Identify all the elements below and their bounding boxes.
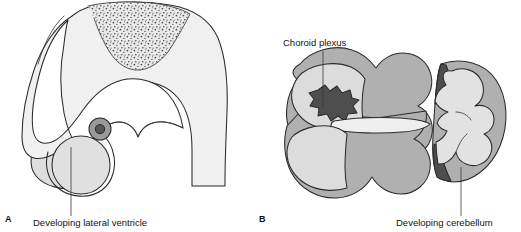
label-choroid-plexus: Choroid plexus bbox=[283, 37, 347, 48]
panel-a-group: A Developing lateral ventricle bbox=[5, 0, 227, 228]
anatomical-figure-svg: A Developing lateral ventricle bbox=[0, 0, 521, 232]
label-developing-lateral-ventricle: Developing lateral ventricle bbox=[33, 217, 147, 228]
panel-b-group: B Choroid plexus Developing cerebellum bbox=[259, 37, 506, 228]
panel-letter-b: B bbox=[259, 214, 266, 224]
panel-b-inner-lobe-lower-left bbox=[287, 126, 347, 190]
panel-letter-a: A bbox=[5, 214, 12, 224]
figure-root: A Developing lateral ventricle bbox=[0, 0, 521, 232]
panel-a-choroid-nodule-inner bbox=[95, 124, 104, 133]
panel-b-fourth-ventricle-cleft bbox=[331, 118, 430, 133]
label-developing-cerebellum: Developing cerebellum bbox=[396, 217, 493, 228]
developing-lateral-ventricle-circle bbox=[52, 136, 110, 194]
